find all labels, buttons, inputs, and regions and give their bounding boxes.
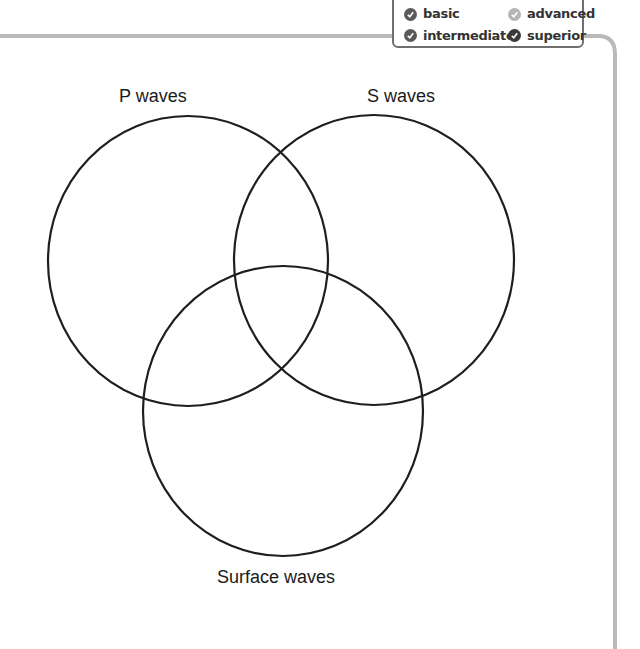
legend-item-intermediate: intermediate xyxy=(404,26,508,47)
check-circle-icon xyxy=(404,29,417,42)
legend-label: basic xyxy=(423,5,459,23)
legend-label: intermediate xyxy=(423,27,514,45)
venn-label-p-waves: P waves xyxy=(119,86,187,107)
venn-label-surface-waves: Surface waves xyxy=(217,567,335,588)
check-circle-icon xyxy=(508,8,521,21)
venn-circle-surface-waves xyxy=(143,266,423,556)
legend-label: advanced xyxy=(527,5,595,23)
legend-item-superior: superior xyxy=(508,26,588,47)
legend-label: superior xyxy=(527,27,586,45)
legend-item-advanced: advanced xyxy=(508,4,588,25)
check-circle-icon xyxy=(508,29,521,42)
frame-right-border xyxy=(584,36,615,649)
skill-level-legend: basic advanced intermediate superior xyxy=(392,0,584,48)
venn-circle-p-waves xyxy=(48,116,328,406)
check-circle-icon xyxy=(404,8,417,21)
venn-circle-s-waves xyxy=(234,115,514,405)
venn-label-s-waves: S waves xyxy=(367,86,435,107)
page-frame xyxy=(0,0,640,649)
legend-item-basic: basic xyxy=(404,4,508,25)
